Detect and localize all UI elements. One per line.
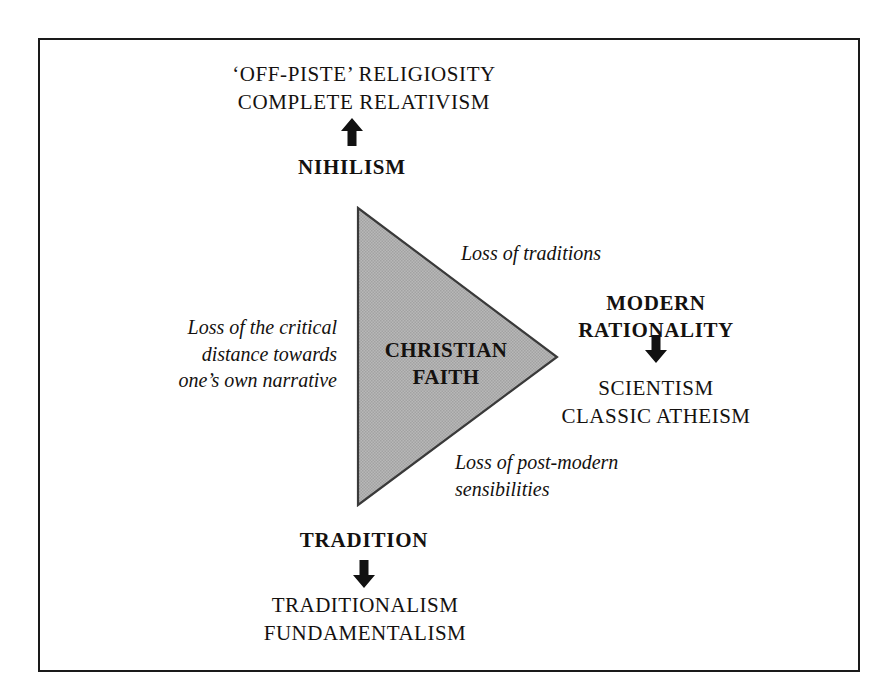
edge-label-left-line-1: Loss of the critical [188,316,337,338]
bottom-outcome-line-1: TRADITIONALISM [272,593,459,617]
top-outcome-text: ‘OFF-PISTE’ RELIGIOSITYCOMPLETE RELATIVI… [232,60,496,117]
bottom-outcome-text: TRADITIONALISMFUNDAMENTALISM [264,592,467,647]
arrow-up-icon [339,117,365,147]
edge-label-left-line-2: distance towards [202,343,337,365]
triangle-label-line-1: CHRISTIAN [385,338,508,362]
edge-label-loss-of-critical-distance: Loss of the criticaldistance towardsone’… [178,314,337,394]
bottom-outcome-line-2: FUNDAMENTALISM [264,621,467,645]
edge-label-left-line-3: one’s own narrative [178,369,337,391]
edge-label-lower-right-line-2: sensibilities [455,478,549,500]
nihilism-label: NIHILISM [298,154,406,181]
triangle-label-line-2: FAITH [413,365,480,389]
tradition-label: TRADITION [300,527,429,554]
edge-label-loss-of-traditions: Loss of traditions [461,240,601,266]
modern-rationality-line-1: MODERN [606,291,705,315]
right-outcome-line-2: CLASSIC ATHEISM [562,404,751,428]
arrow-down-icon-bottom [351,559,377,589]
edge-label-loss-of-post-modern-sensibilities: Loss of post-modernsensibilities [455,449,618,502]
edge-label-lower-right-line-1: Loss of post-modern [455,451,618,473]
diagram-canvas: ‘OFF-PISTE’ RELIGIOSITYCOMPLETE RELATIVI… [0,0,895,698]
top-outcome-line-2: COMPLETE RELATIVISM [238,90,490,114]
arrow-down-icon-right [643,334,669,364]
right-outcome-text: SCIENTISMCLASSIC ATHEISM [562,375,751,430]
right-outcome-line-1: SCIENTISM [598,376,713,400]
top-outcome-line-1: ‘OFF-PISTE’ RELIGIOSITY [232,62,496,86]
triangle-center-label: CHRISTIANFAITH [385,337,508,391]
